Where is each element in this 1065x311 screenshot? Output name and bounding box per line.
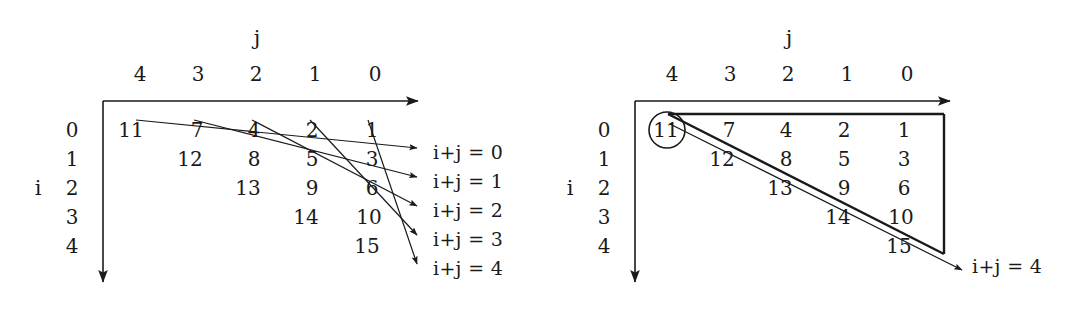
right-row-header-0: 0 — [598, 120, 611, 140]
right-cell-r3c0: 14 — [825, 207, 850, 227]
left-col-header-3: 3 — [192, 64, 205, 84]
right-col-header-3: 3 — [724, 64, 737, 84]
left-col-header-1: 1 — [309, 64, 322, 84]
left-cell-r3c1: 10 — [356, 207, 381, 227]
right-row-header-2: 2 — [598, 178, 611, 198]
left-row-header-1: 1 — [66, 149, 79, 169]
left-cell-r1c0: 12 — [177, 149, 202, 169]
left-row-header-0: 0 — [66, 120, 79, 140]
right-cell-r2c1: 9 — [838, 178, 851, 198]
right-cell-r2c0: 13 — [767, 178, 792, 198]
right-row-header-4: 4 — [598, 236, 611, 256]
left-diagonal-label-0: i+j = 0 — [433, 143, 503, 162]
right-axis-label-i: i — [567, 178, 574, 199]
right-cell-r2c2: 6 — [898, 178, 911, 198]
right-col-header-2: 2 — [782, 64, 795, 84]
right-panel-diagonal-arrow — [670, 124, 962, 270]
right-cell-r0c2: 4 — [780, 120, 793, 140]
right-cell-r1c1: 8 — [780, 149, 793, 169]
right-row-header-3: 3 — [598, 207, 611, 227]
left-cell-r1c2: 5 — [306, 149, 319, 169]
left-cell-r4c0: 15 — [354, 236, 379, 256]
left-cell-r0c0: 11 — [118, 120, 143, 140]
left-row-header-2: 2 — [66, 178, 79, 198]
left-cell-r2c2: 6 — [366, 178, 379, 198]
left-diagonal-label-1: i+j = 1 — [433, 172, 503, 191]
left-col-header-0: 0 — [369, 64, 382, 84]
right-cell-r4c0: 15 — [886, 236, 911, 256]
right-cell-r1c3: 3 — [898, 149, 911, 169]
left-cell-r2c0: 13 — [235, 178, 260, 198]
right-axis-label-j: j — [786, 28, 793, 49]
left-cell-r0c1: 7 — [191, 120, 204, 140]
right-col-header-1: 1 — [841, 64, 854, 84]
right-diagonal-label-4: i+j = 4 — [972, 257, 1042, 276]
left-cell-r3c0: 14 — [293, 207, 318, 227]
right-cell-r0c0: 11 — [653, 120, 678, 140]
right-cell-r0c3: 2 — [838, 120, 851, 140]
left-diagonal-label-3: i+j = 3 — [433, 230, 503, 249]
left-diagonal-label-4: i+j = 4 — [433, 259, 503, 278]
figure-canvas: j i 4 3 2 1 0 0 1 2 3 4 11 7 4 2 1 12 8 … — [0, 0, 1065, 311]
left-row-header-4: 4 — [66, 236, 79, 256]
left-axis-label-i: i — [35, 178, 42, 199]
right-cell-r1c0: 12 — [709, 149, 734, 169]
left-cell-r0c2: 4 — [248, 120, 261, 140]
right-col-header-0: 0 — [901, 64, 914, 84]
left-col-header-2: 2 — [250, 64, 263, 84]
left-row-header-3: 3 — [66, 207, 79, 227]
left-axis-label-j: j — [254, 28, 261, 49]
left-cell-r1c1: 8 — [248, 149, 261, 169]
right-cell-r0c1: 7 — [723, 120, 736, 140]
left-cell-r2c1: 9 — [306, 178, 319, 198]
right-cell-r0c4: 1 — [898, 120, 911, 140]
right-col-header-4: 4 — [666, 64, 679, 84]
left-diagonal-label-2: i+j = 2 — [433, 201, 503, 220]
right-diagonal-arrow-4 — [670, 124, 962, 270]
right-row-header-1: 1 — [598, 149, 611, 169]
left-cell-r1c3: 3 — [366, 149, 379, 169]
right-cell-r3c1: 10 — [888, 207, 913, 227]
left-cell-r0c4: 1 — [366, 120, 379, 140]
right-cell-r1c2: 5 — [838, 149, 851, 169]
left-cell-r0c3: 2 — [306, 120, 319, 140]
left-col-header-4: 4 — [134, 64, 147, 84]
